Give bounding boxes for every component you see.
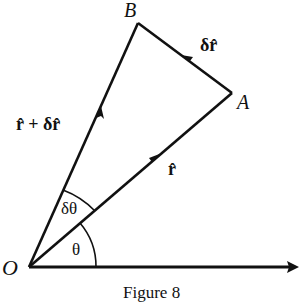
theta-arc: [80, 223, 96, 267]
point-label-a: A: [237, 92, 249, 112]
point-label-o: O: [2, 257, 18, 279]
vector-label-delta-r-hat: δr̂: [200, 36, 217, 54]
angle-label-delta-theta: δθ: [61, 200, 77, 217]
vector-label-sum: r̂ + δr̂: [16, 115, 60, 133]
figure-caption: Figure 8: [123, 284, 180, 301]
r-hat-arrowhead-icon: [149, 153, 162, 162]
vector-delta-r-hat: [138, 23, 232, 93]
vector-r-hat-plus-delta: [29, 23, 138, 267]
angle-label-theta: θ: [72, 241, 80, 258]
horizontal-axis: [29, 261, 299, 273]
point-label-b: B: [124, 0, 136, 20]
vector-label-r-hat: r̂: [168, 160, 176, 178]
vector-diagram: [0, 0, 301, 305]
